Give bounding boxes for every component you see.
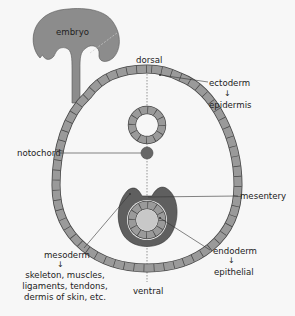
ventral-label: ventral [133, 286, 163, 296]
epithelial-label: epithelial [214, 267, 254, 277]
arrow-down-icon: ↓ [228, 256, 235, 265]
dorsal-label: dorsal [136, 55, 162, 65]
arrow-down-icon: ↓ [57, 260, 64, 269]
epidermis-label: epidermis [209, 100, 252, 110]
mesentery-label: mesentery [240, 191, 286, 201]
neural-tube [132, 110, 162, 140]
mesoderm-label: mesoderm [44, 250, 90, 260]
mesoderm-derivatives-line-3: dermis of skin, etc. [22, 292, 108, 302]
embryo-silhouette-icon [33, 9, 119, 104]
embryo-cross-section-diagram: embryo dorsal ventral ectoderm ↓ epiderm… [0, 0, 295, 316]
arrow-down-icon: ↓ [224, 89, 231, 98]
embryo-label: embryo [56, 27, 89, 37]
gut-endoderm [127, 200, 167, 240]
notochord-label: notochord [17, 148, 61, 158]
mesoderm-derivatives-line-1: skeleton, muscles, [22, 270, 108, 280]
ectoderm-label: ectoderm [209, 78, 250, 88]
mesoderm-derivatives-line-2: ligaments, tendons, [22, 281, 108, 291]
notochord-shape [141, 147, 153, 159]
endoderm-label: endoderm [213, 246, 257, 256]
